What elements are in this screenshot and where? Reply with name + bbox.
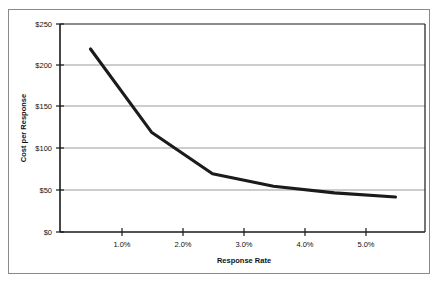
x-tick-label-5pct: 5.0% (357, 240, 374, 249)
line-chart: $250 $200 $150 $100 $50 $0 1.0% 2.0% 3.0… (0, 0, 439, 283)
x-tick-label-1pct: 1.0% (113, 240, 130, 249)
y-tick-label-250: $250 (35, 20, 52, 29)
x-tick-label-2pct: 2.0% (174, 240, 191, 249)
y-tick-label-150: $150 (35, 102, 52, 111)
y-tick-label-0: $0 (44, 228, 52, 237)
x-tick-labels: 1.0% 2.0% 3.0% 4.0% 5.0% (113, 240, 374, 249)
data-series-line (91, 49, 396, 197)
axes-lines (60, 24, 425, 232)
y-tick-label-100: $100 (35, 144, 52, 153)
y-tick-labels: $250 $200 $150 $100 $50 $0 (35, 20, 52, 237)
y-axis-title: Cost per Response (19, 94, 28, 162)
x-axis-title: Response Rate (217, 256, 271, 265)
y-tick-label-50: $50 (39, 186, 52, 195)
y-tick-label-200: $200 (35, 61, 52, 70)
chart-figure: $250 $200 $150 $100 $50 $0 1.0% 2.0% 3.0… (0, 0, 439, 283)
x-tick-label-4pct: 4.0% (296, 240, 313, 249)
x-tick-label-3pct: 3.0% (235, 240, 252, 249)
plot-area-border (60, 24, 425, 232)
